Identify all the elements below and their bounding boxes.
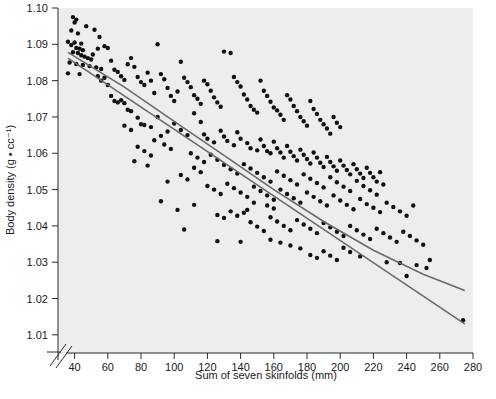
data-point bbox=[272, 139, 276, 143]
data-point bbox=[165, 179, 169, 183]
y-tick-label: 1.10 bbox=[27, 2, 48, 14]
data-point bbox=[129, 109, 133, 113]
data-point bbox=[278, 240, 282, 244]
data-point bbox=[162, 142, 166, 146]
data-point bbox=[361, 232, 365, 236]
data-point bbox=[192, 111, 196, 115]
data-point bbox=[169, 147, 173, 151]
data-point bbox=[228, 209, 232, 213]
x-axis-title: Sum of seven skinfolds (mm) bbox=[195, 369, 337, 381]
data-point bbox=[325, 203, 329, 207]
data-point bbox=[345, 203, 349, 207]
data-point bbox=[142, 83, 146, 87]
data-point bbox=[321, 185, 325, 189]
data-point bbox=[212, 140, 216, 144]
data-point bbox=[365, 166, 369, 170]
data-point bbox=[351, 162, 355, 166]
scatter-plot: 1.011.021.031.041.051.061.071.081.091.10… bbox=[0, 0, 496, 399]
data-point bbox=[375, 192, 379, 196]
data-point bbox=[315, 112, 319, 116]
data-point bbox=[301, 119, 305, 123]
data-point bbox=[135, 115, 139, 119]
data-point bbox=[288, 178, 292, 182]
data-point bbox=[288, 243, 292, 247]
data-point bbox=[295, 182, 299, 186]
data-point bbox=[235, 80, 239, 84]
data-point bbox=[238, 84, 242, 88]
data-point bbox=[195, 155, 199, 159]
data-point bbox=[185, 80, 189, 84]
data-point bbox=[272, 198, 276, 202]
data-point bbox=[192, 203, 196, 207]
data-point bbox=[341, 163, 345, 167]
data-point bbox=[272, 206, 276, 210]
data-point bbox=[81, 48, 85, 52]
data-point bbox=[358, 171, 362, 175]
data-point bbox=[308, 161, 312, 165]
data-point bbox=[77, 72, 81, 76]
data-point bbox=[215, 213, 219, 217]
data-point bbox=[209, 89, 213, 93]
data-point bbox=[202, 78, 206, 82]
data-point bbox=[275, 219, 279, 223]
data-point bbox=[315, 231, 319, 235]
data-point bbox=[401, 230, 405, 234]
data-point bbox=[321, 165, 325, 169]
data-point bbox=[242, 92, 246, 96]
data-point bbox=[182, 227, 186, 231]
data-point bbox=[301, 172, 305, 176]
data-point bbox=[122, 78, 126, 82]
data-point bbox=[175, 89, 179, 93]
data-point bbox=[308, 176, 312, 180]
data-point bbox=[145, 163, 149, 167]
data-point bbox=[199, 120, 203, 124]
data-point bbox=[361, 176, 365, 180]
data-point bbox=[428, 258, 432, 262]
data-point bbox=[282, 174, 286, 178]
data-point bbox=[222, 216, 226, 220]
data-point bbox=[215, 239, 219, 243]
data-point bbox=[66, 71, 70, 75]
data-point bbox=[384, 260, 388, 264]
data-point bbox=[72, 20, 76, 24]
data-point bbox=[185, 177, 189, 181]
data-point bbox=[292, 104, 296, 108]
data-point bbox=[311, 195, 315, 199]
data-point bbox=[411, 203, 415, 207]
data-point bbox=[355, 167, 359, 171]
data-point bbox=[328, 253, 332, 257]
data-point bbox=[76, 31, 80, 35]
data-point bbox=[318, 161, 322, 165]
data-point bbox=[265, 94, 269, 98]
data-point bbox=[335, 258, 339, 262]
data-point bbox=[285, 192, 289, 196]
data-point bbox=[282, 224, 286, 228]
data-point bbox=[109, 94, 113, 98]
data-point bbox=[255, 148, 259, 152]
data-point bbox=[308, 227, 312, 231]
data-point bbox=[268, 237, 272, 241]
data-point bbox=[298, 200, 302, 204]
data-point bbox=[225, 182, 229, 186]
data-point bbox=[338, 125, 342, 129]
data-point bbox=[288, 150, 292, 154]
data-point bbox=[278, 187, 282, 191]
data-point bbox=[238, 137, 242, 141]
data-point bbox=[92, 28, 96, 32]
data-point bbox=[292, 154, 296, 158]
data-point bbox=[315, 256, 319, 260]
data-point bbox=[255, 110, 259, 114]
data-point bbox=[106, 46, 110, 50]
data-point bbox=[252, 107, 256, 111]
data-point bbox=[155, 42, 159, 46]
data-point bbox=[252, 200, 256, 204]
data-point bbox=[139, 80, 143, 84]
data-point bbox=[325, 126, 329, 130]
data-point bbox=[335, 168, 339, 172]
data-point bbox=[165, 129, 169, 133]
data-point bbox=[126, 62, 130, 66]
data-point bbox=[361, 184, 365, 188]
y-tick-label: 1.08 bbox=[27, 75, 48, 87]
data-point bbox=[308, 253, 312, 257]
data-point bbox=[172, 99, 176, 103]
